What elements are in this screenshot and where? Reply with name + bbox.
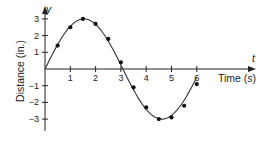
x-axis-title: Time (s) <box>218 72 256 84</box>
data-point <box>68 25 72 29</box>
x-axis-variable-label: t <box>252 52 256 64</box>
y-tick-label: −3 <box>29 114 39 124</box>
data-point <box>56 44 60 48</box>
y-tick-label: 3 <box>34 14 39 24</box>
x-axis-title-suffix: ) <box>253 72 257 84</box>
y-axis-variable-label: y <box>45 3 52 15</box>
data-point <box>81 17 85 21</box>
y-tick-label: −1 <box>29 81 39 91</box>
data-point <box>119 60 123 64</box>
data-point <box>195 82 199 86</box>
data-point <box>182 104 186 108</box>
data-point <box>106 37 110 41</box>
x-tick-label: 1 <box>68 73 73 83</box>
x-axis-title-prefix: Time ( <box>218 72 248 84</box>
y-tick-label: −2 <box>29 97 39 107</box>
data-point <box>169 115 173 119</box>
data-point <box>131 85 135 89</box>
y-tick-label: 2 <box>34 31 39 41</box>
x-tick-label: 4 <box>144 73 149 83</box>
chart-svg: 123456−3−2−1123 y t Time (s) Distance (i… <box>0 0 267 143</box>
x-tick-label: 3 <box>118 73 123 83</box>
data-point <box>144 105 148 109</box>
x-tick-label: 2 <box>93 73 98 83</box>
y-axis-title: Distance (in.) <box>14 40 26 102</box>
y-tick-label: 1 <box>34 47 39 57</box>
data-point <box>94 22 98 26</box>
distance-time-chart: 123456−3−2−1123 y t Time (s) Distance (i… <box>0 0 267 143</box>
x-tick-label: 5 <box>169 73 174 83</box>
data-point <box>157 117 161 121</box>
